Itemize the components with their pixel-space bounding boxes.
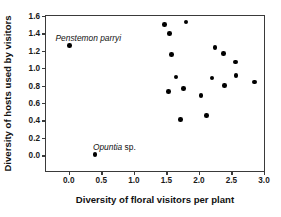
x-axis-tick <box>101 171 102 175</box>
y-axis-tick <box>42 86 46 87</box>
x-axis-tick-label: 2.0 <box>193 176 204 185</box>
data-point <box>184 20 189 25</box>
y-axis-tick-label: 0.4 <box>29 116 40 125</box>
y-axis-title: Diversity of hosts used by visitors <box>0 15 14 172</box>
data-point <box>67 43 72 48</box>
x-axis-tick <box>134 171 135 175</box>
scatter-plot-figure: Diversity of hosts used by visitors 0.00… <box>0 0 281 217</box>
x-axis-tick-label: 3.0 <box>258 176 269 185</box>
y-axis-tick <box>42 103 46 104</box>
y-axis-tick <box>42 138 46 139</box>
data-point <box>178 117 183 122</box>
data-point <box>169 52 174 57</box>
data-point <box>93 152 98 157</box>
data-point <box>210 76 215 81</box>
species-suffix-text: sp. <box>122 142 136 152</box>
data-point <box>222 83 227 88</box>
x-axis-tick <box>69 171 70 175</box>
x-axis-tick-label: 1.0 <box>128 176 139 185</box>
x-axis-tick-label: 0.5 <box>96 176 107 185</box>
y-axis-tick-label: 1.0 <box>29 64 40 73</box>
y-axis-tick-label: 1.4 <box>29 29 40 38</box>
data-point <box>167 31 172 36</box>
data-point <box>252 80 257 85</box>
data-point <box>174 75 179 80</box>
data-point <box>204 113 209 118</box>
x-axis-tick <box>199 171 200 175</box>
x-axis-tick <box>166 171 167 175</box>
x-axis-tick <box>264 171 265 175</box>
y-axis-tick <box>42 120 46 121</box>
data-point <box>199 93 204 98</box>
y-axis-tick-label: 0.6 <box>29 99 40 108</box>
data-point <box>221 51 226 56</box>
plot-area: 0.00.20.40.60.81.01.21.41.60.00.51.01.52… <box>45 15 265 172</box>
y-axis-tick-label: 1.2 <box>29 46 40 55</box>
y-axis-tick <box>42 16 46 17</box>
x-axis-tick <box>231 171 232 175</box>
y-axis-tick <box>42 51 46 52</box>
species-annotation: Penstemon parryi <box>55 33 121 43</box>
data-point <box>166 89 171 94</box>
data-point <box>162 22 167 27</box>
x-axis-tick-label: 1.5 <box>161 176 172 185</box>
data-point <box>234 73 239 78</box>
species-genus-text: Penstemon parryi <box>55 33 121 43</box>
data-point <box>213 45 218 50</box>
y-axis-tick-label: 0.2 <box>29 133 40 142</box>
y-axis-tick <box>42 68 46 69</box>
y-axis-title-text: Diversity of hosts used by visitors <box>2 15 13 171</box>
y-axis-tick-label: 0.0 <box>29 151 40 160</box>
x-axis-tick-label: 2.5 <box>226 176 237 185</box>
data-point <box>181 86 186 91</box>
y-axis-tick-label: 1.6 <box>29 12 40 21</box>
x-axis-title: Diversity of floral visitors per plant <box>45 194 265 205</box>
y-axis-tick <box>42 33 46 34</box>
y-axis-tick-label: 0.8 <box>29 81 40 90</box>
data-point <box>233 60 238 65</box>
species-genus-text: Opuntia <box>93 142 122 152</box>
y-axis-tick <box>42 155 46 156</box>
x-axis-tick-label: 0.0 <box>63 176 74 185</box>
species-annotation: Opuntia sp. <box>93 142 136 152</box>
